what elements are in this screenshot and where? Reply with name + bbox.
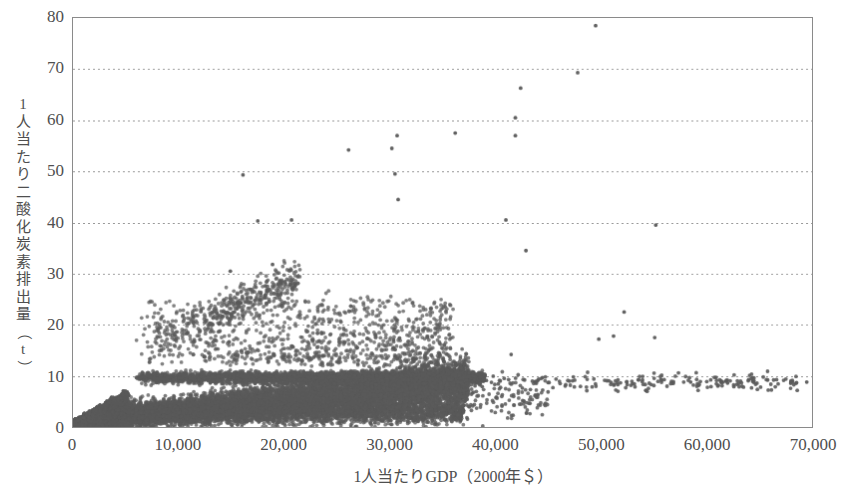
x-axis-tick-label: 70,000: [758, 436, 847, 453]
x-axis-tick-label: 30,000: [335, 436, 445, 453]
x-axis-tick-labels: 010,00020,00030,00040,00050,00060,00070,…: [0, 436, 847, 460]
y-axis-tick-label: 10: [24, 368, 64, 385]
x-axis-tick-label: 20,000: [229, 436, 339, 453]
scatter-plot-canvas: [73, 18, 812, 427]
y-axis-tick-label: 50: [24, 162, 64, 179]
y-axis-tick-labels: 01020304050607080: [16, 0, 64, 499]
x-axis-tick-label: 0: [17, 436, 127, 453]
x-axis-title: 1人当たりGDP（2000年＄）: [0, 468, 847, 486]
x-axis-tick-label: 10,000: [123, 436, 233, 453]
y-axis-tick-label: 80: [24, 8, 64, 25]
x-axis-tick-label: 40,000: [440, 436, 550, 453]
plot-area: [72, 17, 813, 428]
scatter-chart: 1人当たり二酸化炭素排出量（t） 01020304050607080 010,0…: [0, 0, 847, 499]
x-axis-tick-label: 50,000: [546, 436, 656, 453]
y-axis-tick-label: 20: [24, 316, 64, 333]
x-axis-tick-label: 60,000: [652, 436, 762, 453]
y-axis-tick-label: 40: [24, 214, 64, 231]
y-axis-tick-label: 0: [24, 419, 64, 436]
y-axis-tick-label: 30: [24, 265, 64, 282]
y-axis-tick-label: 70: [24, 59, 64, 76]
y-axis-tick-label: 60: [24, 111, 64, 128]
